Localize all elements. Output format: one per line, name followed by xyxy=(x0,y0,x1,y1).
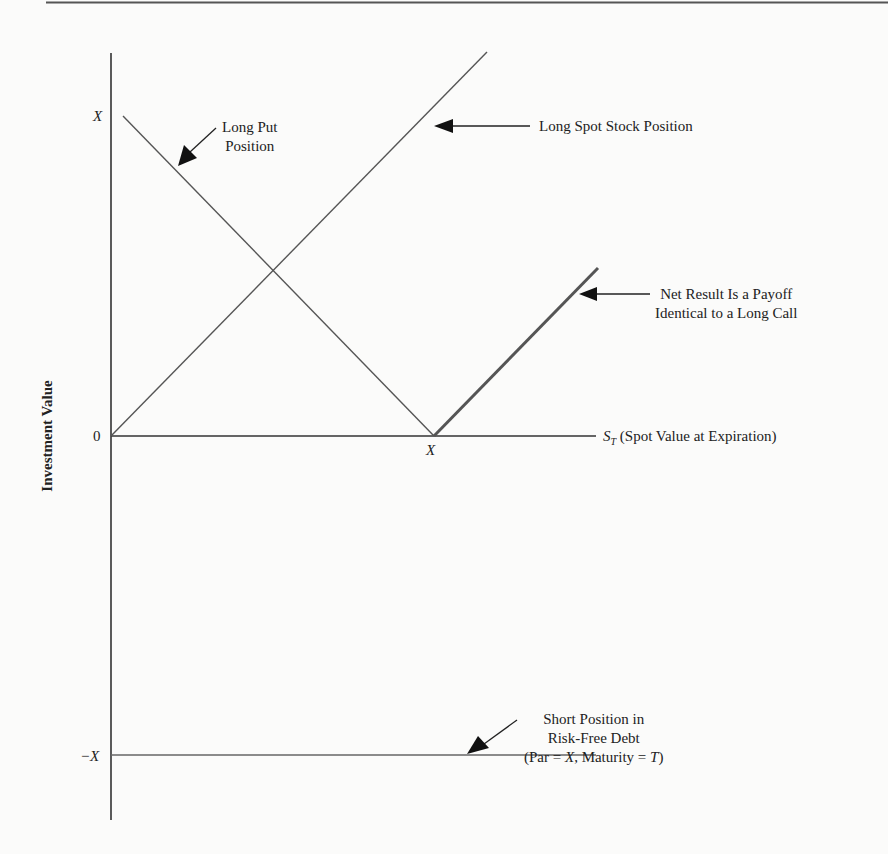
arrow-long-put xyxy=(178,128,216,166)
x-axis-text: (Spot Value at Expiration) xyxy=(620,428,777,444)
x-axis-symbol: S xyxy=(603,428,611,444)
arrow-short-debt xyxy=(467,720,517,754)
annotation-short-debt: Short Position in Risk-Free Debt (Par = … xyxy=(524,710,663,767)
y-axis-label: Investment Value xyxy=(39,380,56,491)
annotation-net-result: Net Result Is a Payoff Identical to a Lo… xyxy=(655,285,797,323)
x-tick-strike: X xyxy=(426,441,435,460)
x-axis-subscript: T xyxy=(611,436,617,447)
arrow-long-stock xyxy=(434,119,530,133)
long-put-line xyxy=(123,116,434,436)
x-axis-label: ST (Spot Value at Expiration) xyxy=(603,427,777,451)
y-tick-x: X xyxy=(93,107,102,126)
annotation-long-stock: Long Spot Stock Position xyxy=(539,117,693,136)
y-tick-zero: 0 xyxy=(93,427,101,446)
long-stock-line xyxy=(111,52,487,436)
arrow-net-result xyxy=(579,287,650,301)
y-tick-neg-x: −X xyxy=(80,747,99,766)
annotation-long-put: Long Put Position xyxy=(222,118,277,156)
net-call-payoff-line xyxy=(434,268,598,436)
